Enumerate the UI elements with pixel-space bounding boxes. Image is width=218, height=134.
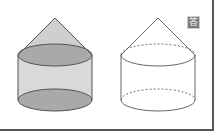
shaded-cone-cylinder bbox=[18, 18, 92, 111]
geometry-diagram bbox=[0, 0, 218, 134]
answer-badge-icon: 答 bbox=[187, 16, 200, 29]
outline-cone-cylinder bbox=[121, 18, 195, 111]
